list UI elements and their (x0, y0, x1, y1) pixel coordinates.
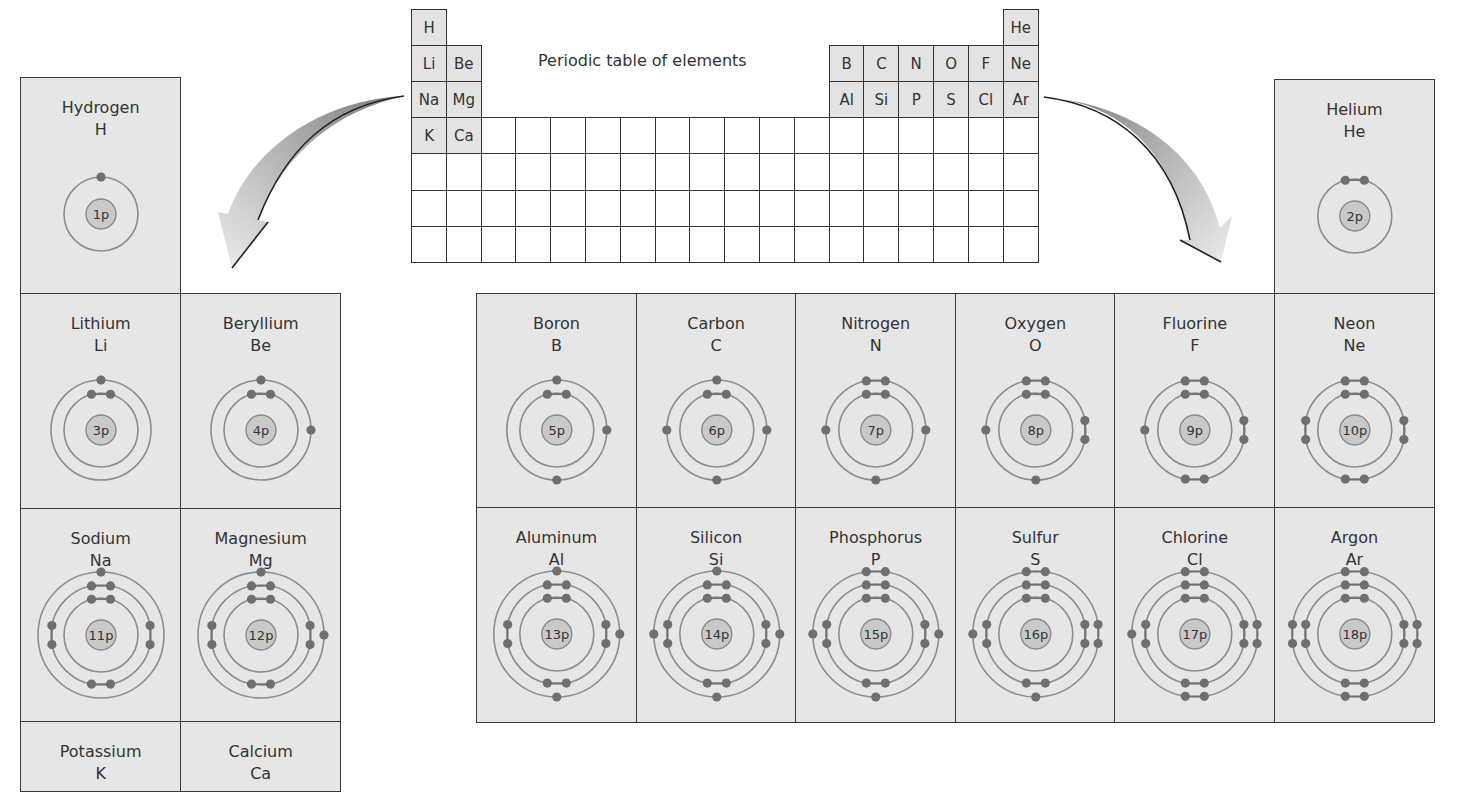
electron-dot (1200, 474, 1209, 483)
electron-dot (1200, 594, 1209, 603)
nucleus-label: 1p (93, 207, 110, 222)
electron-dot (649, 629, 658, 638)
electron-dot (106, 390, 115, 399)
electron-dot (871, 692, 880, 701)
electron-dot (761, 620, 770, 629)
electron-dot (881, 376, 890, 385)
bohr-model-diagram: 15p (796, 508, 956, 723)
electron-dot (543, 390, 552, 399)
electron-dot (1240, 620, 1249, 629)
nucleus-label: 3p (93, 423, 110, 438)
electron-dot (96, 375, 105, 384)
electron-dot (1200, 580, 1209, 589)
curved-arrow-left-icon (218, 96, 404, 268)
electron-dot (862, 390, 871, 399)
electron-dot (920, 620, 929, 629)
electron-dot (247, 581, 256, 590)
electron-dot (1181, 678, 1190, 687)
electron-dot (1200, 678, 1209, 687)
element-card-lithium: LithiumLi3p (20, 293, 181, 509)
electron-dot (881, 580, 890, 589)
element-name: Potassium (21, 742, 180, 761)
electron-dot (761, 639, 770, 648)
electron-dot (615, 629, 624, 638)
electron-dot (1341, 176, 1350, 185)
electron-dot (822, 639, 831, 648)
electron-dot (1240, 416, 1249, 425)
bohr-model-diagram: 4p (181, 294, 341, 509)
electron-dot (1341, 678, 1350, 687)
nucleus-label: 13p (544, 627, 569, 642)
nucleus-label: 12p (249, 628, 274, 643)
electron-dot (266, 390, 275, 399)
element-card-oxygen: OxygenO8p (955, 293, 1116, 508)
element-card-chlorine: ChlorineCl17p (1114, 507, 1275, 723)
electron-dot (712, 475, 721, 484)
element-card-beryllium: BerylliumBe4p (180, 293, 341, 509)
electron-dot (1200, 567, 1209, 576)
electron-dot (1341, 376, 1350, 385)
electron-dot (96, 172, 105, 181)
electron-dot (1301, 639, 1310, 648)
bohr-model-diagram: 7p (796, 294, 956, 508)
electron-dot (145, 621, 154, 630)
electron-dot (881, 390, 890, 399)
electron-dot (1301, 435, 1310, 444)
electron-dot (982, 620, 991, 629)
electron-dot (1040, 567, 1049, 576)
electron-dot (881, 594, 890, 603)
electron-dot (862, 567, 871, 576)
electron-dot (1080, 416, 1089, 425)
electron-dot (1360, 176, 1369, 185)
electron-dot (503, 620, 512, 629)
electron-dot (1301, 416, 1310, 425)
electron-dot (982, 639, 991, 648)
electron-dot (1341, 580, 1350, 589)
electron-dot (1031, 692, 1040, 701)
electron-dot (87, 390, 96, 399)
element-card-hydrogen: HydrogenH1p (20, 77, 181, 294)
electron-dot (1200, 692, 1209, 701)
electron-dot (1360, 580, 1369, 589)
electron-dot (562, 390, 571, 399)
electron-dot (663, 639, 672, 648)
curved-arrow-right-icon (1044, 97, 1232, 262)
electron-dot (266, 581, 275, 590)
electron-dot (808, 629, 817, 638)
electron-dot (1080, 620, 1089, 629)
electron-dot (552, 566, 561, 575)
electron-dot (562, 678, 571, 687)
electron-dot (562, 580, 571, 589)
electron-dot (1360, 594, 1369, 603)
electron-dot (1341, 390, 1350, 399)
electron-dot (256, 375, 265, 384)
electron-dot (1040, 594, 1049, 603)
electron-dot (662, 425, 671, 434)
electron-dot (1301, 620, 1310, 629)
element-card-magnesium: MagnesiumMg12p (180, 508, 341, 722)
electron-dot (1360, 376, 1369, 385)
electron-dot (702, 390, 711, 399)
electron-dot (1288, 639, 1297, 648)
element-card-neon: NeonNe10p (1274, 293, 1435, 508)
bohr-model-diagram: 9p (1115, 294, 1275, 508)
electron-dot (921, 425, 930, 434)
electron-dot (1412, 620, 1421, 629)
electron-dot (266, 679, 275, 688)
electron-dot (663, 620, 672, 629)
electron-dot (934, 629, 943, 638)
electron-dot (1093, 620, 1102, 629)
electron-dot (1399, 435, 1408, 444)
electron-dot (1040, 390, 1049, 399)
electron-dot (562, 594, 571, 603)
electron-dot (1412, 639, 1421, 648)
electron-dot (552, 375, 561, 384)
electron-dot (862, 376, 871, 385)
bohr-model-diagram: 18p (1275, 508, 1435, 723)
electron-dot (87, 679, 96, 688)
electron-dot (87, 595, 96, 604)
electron-dot (1040, 376, 1049, 385)
electron-dot (821, 425, 830, 434)
electron-dot (762, 425, 771, 434)
nucleus-label: 5p (549, 423, 566, 438)
